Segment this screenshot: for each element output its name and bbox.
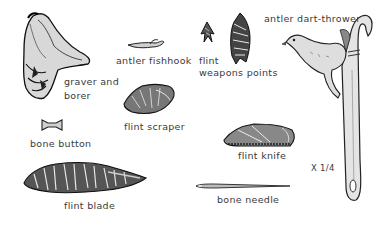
flint-knife-drawing [224,124,294,146]
flint-scraper-label: flint scraper [124,121,185,132]
bone-button-drawing [42,120,62,130]
flint-scraper-drawing [124,85,174,114]
weapons-points-label: weapons points [199,67,278,78]
bone-button-label: bone button [30,138,91,149]
scale-label: X 1/4 [311,163,335,174]
bone-needle-drawing [196,184,290,188]
antler-fishhook-drawing [128,40,164,48]
graver-label-line1: graver and [64,76,119,87]
flint-blade-drawing [24,163,146,193]
dart-thrower-label: antler dart-thrower [264,13,360,24]
flint-point-large-drawing [231,13,250,64]
fishhook-label: antler fishhook [116,55,192,66]
flint-knife-label: flint knife [238,150,286,161]
flint-label: flint [199,55,219,66]
graver-label-line2: borer [64,90,91,101]
flint-blade-label: flint blade [64,200,115,211]
flint-point-small-drawing [201,22,214,42]
bone-needle-label: bone needle [217,194,279,205]
artifact-illustrations [0,0,388,225]
